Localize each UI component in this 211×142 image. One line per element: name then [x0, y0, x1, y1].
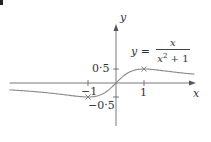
x-tick-label-1: 1 — [140, 87, 147, 98]
y-axis-label: y — [120, 12, 126, 23]
equation-denominator: x2 + 1 — [157, 51, 188, 64]
y-tick-label-0-5: 0·5 — [92, 63, 110, 74]
y-axis-arrow-icon — [114, 24, 119, 31]
function-equation-label: y = x x2 + 1 — [131, 38, 190, 64]
x-axis-label: x — [193, 88, 199, 99]
equation-numerator: x — [170, 38, 176, 48]
y-tick-label-neg0-5: −0·5 — [88, 100, 115, 111]
x-tick-label-neg1: −1 — [81, 86, 97, 97]
denominator-constant: + 1 — [167, 53, 188, 64]
x-axis-arrow-icon — [189, 81, 196, 86]
fraction-bar — [156, 49, 190, 50]
equation-fraction: x x2 + 1 — [156, 38, 190, 64]
equation-lhs: y = — [131, 45, 150, 58]
